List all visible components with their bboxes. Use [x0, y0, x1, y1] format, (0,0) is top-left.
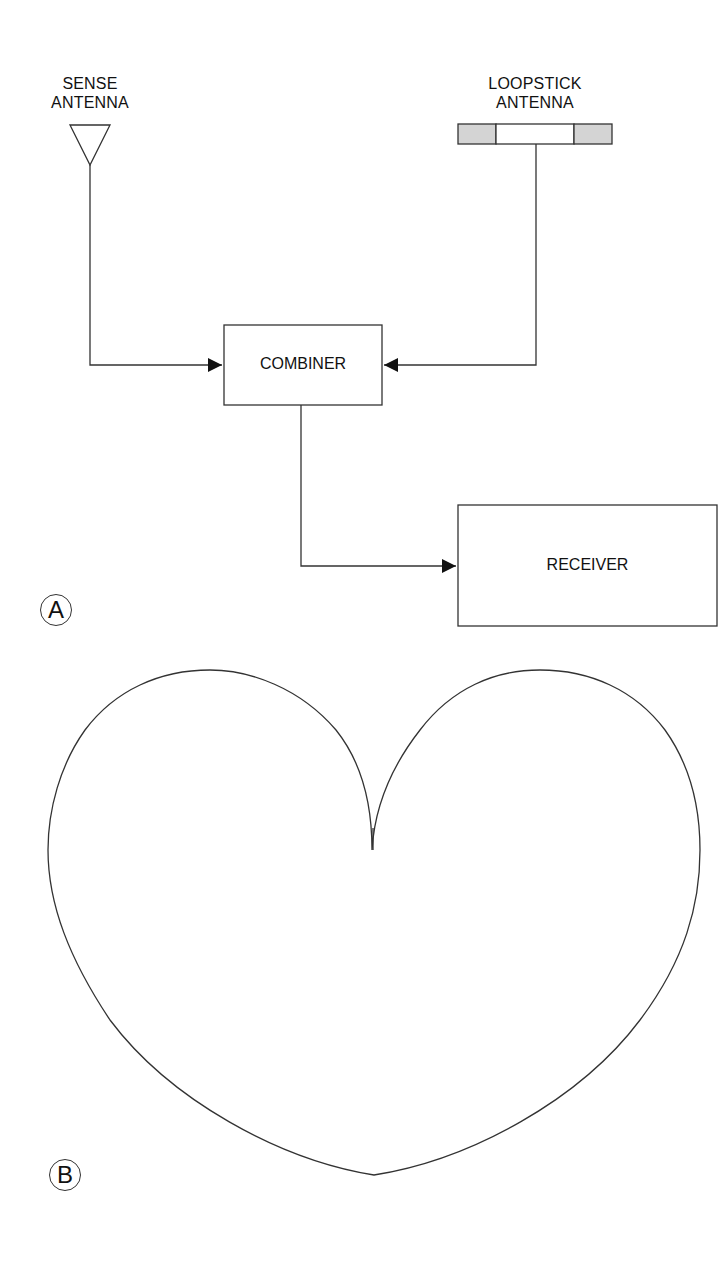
loopstick-to-combiner-line — [384, 144, 536, 365]
part-b-label: B — [49, 1159, 81, 1191]
sense-to-combiner-line — [90, 165, 222, 365]
sense-antenna-icon — [70, 125, 110, 165]
receiver-label: RECEIVER — [458, 556, 717, 574]
loopstick-antenna-label-line2: ANTENNA — [470, 93, 600, 112]
diagram-canvas — [0, 0, 725, 1279]
loopstick-antenna-label: LOOPSTICK ANTENNA — [470, 74, 600, 112]
cardioid-pattern — [48, 670, 700, 1175]
combiner-to-receiver-line — [301, 405, 456, 566]
sense-antenna-label-line1: SENSE — [40, 74, 140, 93]
combiner-label: COMBINER — [224, 355, 382, 373]
loopstick-antenna-label-line1: LOOPSTICK — [470, 74, 600, 93]
part-a-label: A — [40, 594, 72, 626]
sense-antenna-label: SENSE ANTENNA — [40, 74, 140, 112]
loopstick-antenna-icon — [458, 124, 612, 144]
sense-antenna-label-line2: ANTENNA — [40, 93, 140, 112]
